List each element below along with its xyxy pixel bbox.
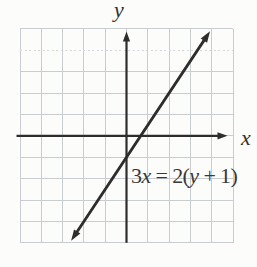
coordinate-plane: y x 3x = 2(y + 1) <box>0 0 257 267</box>
y-axis-label: y <box>112 0 124 22</box>
x-axis-arrowhead <box>218 132 228 139</box>
equation-label: 3x = 2(y + 1) <box>131 163 237 188</box>
axes <box>17 32 228 243</box>
graph-figure: y x 3x = 2(y + 1) <box>0 0 257 267</box>
y-axis-arrowhead <box>123 32 130 42</box>
x-axis-label: x <box>240 125 251 150</box>
